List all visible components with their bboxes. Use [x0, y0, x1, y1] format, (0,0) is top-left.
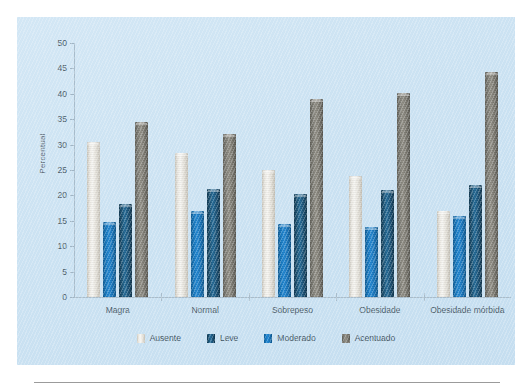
y-tick-mark: [70, 195, 74, 196]
y-axis-title: Percentual: [38, 111, 47, 197]
x-axis-label-obesidade: Obesidade: [336, 305, 423, 315]
legend-swatch-icon: [137, 334, 145, 343]
bar-moderado-obesidade: [365, 227, 378, 297]
x-axis-label-normal: Normal: [161, 305, 248, 315]
legend-item-leve[interactable]: Leve: [207, 333, 238, 343]
y-tick-mark: [70, 297, 74, 298]
legend-label: Moderado: [277, 333, 315, 343]
bar-acentuado-normal: [223, 134, 236, 297]
plot-area: Percentual 50454035302520151050 MagraNor…: [17, 17, 515, 365]
legend-swatch-icon: [342, 334, 350, 343]
y-tick-label: 0: [41, 293, 67, 301]
legend-label: Ausente: [150, 333, 181, 343]
bar-cap: [294, 194, 307, 197]
bar-cap: [87, 142, 100, 145]
y-tick-label: 20: [41, 191, 67, 199]
y-tick-label: 30: [41, 141, 67, 149]
bar-cap: [191, 211, 204, 214]
y-tick-mark: [70, 221, 74, 222]
bar-cap: [453, 216, 466, 219]
bar-ausente-sobrepeso: [262, 170, 275, 297]
bar-cap: [103, 222, 116, 225]
legend-item-ausente[interactable]: Ausente: [137, 333, 181, 343]
bar-cap: [310, 99, 323, 102]
group-separator: [249, 293, 250, 301]
chart-panel: Percentual 50454035302520151050 MagraNor…: [17, 17, 515, 365]
bar-cap: [437, 211, 450, 214]
bar-cap: [485, 72, 498, 75]
bar-cap: [469, 185, 482, 188]
y-tick-mark: [70, 170, 74, 171]
bar-cap: [397, 93, 410, 96]
bar-leve-obesidade-mórbida: [469, 185, 482, 297]
bar-cap: [278, 224, 291, 227]
group-separator: [336, 293, 337, 301]
bar-moderado-normal: [191, 211, 204, 297]
y-tick-label: 5: [41, 268, 67, 276]
y-tick-mark: [70, 119, 74, 120]
legend-swatch-icon: [207, 334, 215, 343]
y-axis-line: [74, 43, 75, 297]
legend-label: Acentuado: [355, 333, 396, 343]
legend-item-moderado[interactable]: Moderado: [264, 333, 315, 343]
y-tick-label: 45: [41, 64, 67, 72]
x-axis-label-magra: Magra: [74, 305, 161, 315]
chart-figure: Percentual 50454035302520151050 MagraNor…: [0, 0, 532, 392]
bar-moderado-obesidade-mórbida: [453, 216, 466, 297]
bar-acentuado-obesidade-mórbida: [485, 72, 498, 297]
bar-leve-obesidade: [381, 190, 394, 297]
bar-cap: [135, 122, 148, 125]
group-separator: [161, 293, 162, 301]
y-tick-mark: [70, 145, 74, 146]
bar-moderado-magra: [103, 222, 116, 297]
y-tick-label: 15: [41, 217, 67, 225]
y-tick-label: 25: [41, 166, 67, 174]
bar-cap: [119, 204, 132, 207]
y-tick-mark: [70, 246, 74, 247]
bar-ausente-magra: [87, 142, 100, 297]
bar-leve-magra: [119, 204, 132, 297]
legend-label: Leve: [220, 333, 238, 343]
footer-rule: [34, 382, 500, 383]
bar-leve-normal: [207, 189, 220, 297]
y-tick-mark: [70, 272, 74, 273]
bar-leve-sobrepeso: [294, 194, 307, 297]
y-tick-mark: [70, 43, 74, 44]
bar-acentuado-obesidade: [397, 93, 410, 297]
bar-cap: [262, 170, 275, 173]
bar-cap: [207, 189, 220, 192]
bar-ausente-normal: [175, 153, 188, 297]
y-tick-label: 10: [41, 242, 67, 250]
y-tick-mark: [70, 94, 74, 95]
bar-acentuado-sobrepeso: [310, 99, 323, 297]
bar-acentuado-magra: [135, 122, 148, 297]
chart-legend: AusenteLeveModeradoAcentuado: [17, 333, 515, 343]
bar-cap: [175, 153, 188, 156]
legend-item-acentuado[interactable]: Acentuado: [342, 333, 396, 343]
bar-ausente-obesidade: [349, 176, 362, 297]
y-tick-label: 40: [41, 90, 67, 98]
bar-moderado-sobrepeso: [278, 224, 291, 297]
y-tick-label: 50: [41, 39, 67, 47]
bar-ausente-obesidade-mórbida: [437, 211, 450, 297]
bar-cap: [223, 134, 236, 137]
bar-cap: [349, 176, 362, 179]
x-axis-line: [74, 297, 511, 298]
y-tick-label: 35: [41, 115, 67, 123]
x-axis-label-sobrepeso: Sobrepeso: [249, 305, 336, 315]
y-tick-mark: [70, 68, 74, 69]
group-separator: [424, 293, 425, 301]
bar-cap: [365, 227, 378, 230]
bar-cap: [381, 190, 394, 193]
x-axis-label-obesidade-mórbida: Obesidade mórbida: [424, 305, 511, 315]
legend-swatch-icon: [264, 334, 272, 343]
